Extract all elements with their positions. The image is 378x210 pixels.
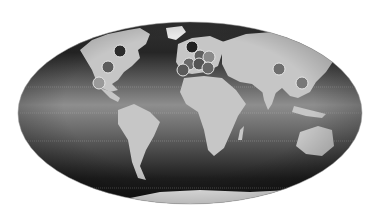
globe: [0, 0, 378, 210]
map-marker-north-america[interactable]: [102, 61, 114, 73]
map-marker-north-america[interactable]: [93, 77, 105, 89]
map-marker-europe[interactable]: [202, 62, 214, 74]
world-map: [0, 0, 378, 210]
map-marker-europe[interactable]: [177, 64, 189, 76]
map-marker-asia[interactable]: [296, 77, 308, 89]
map-marker-asia[interactable]: [273, 63, 285, 75]
globe-shading: [0, 0, 378, 210]
map-marker-north-america[interactable]: [114, 45, 126, 57]
